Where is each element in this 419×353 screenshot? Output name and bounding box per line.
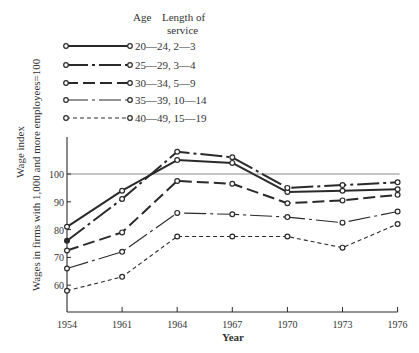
data-point-marker <box>65 238 70 243</box>
data-point-marker <box>340 188 345 193</box>
legend-marker <box>128 63 133 68</box>
data-point-marker <box>175 158 180 163</box>
legend-marker <box>64 116 69 121</box>
x-tick-label: 1964 <box>167 319 187 330</box>
series-40—49 <box>65 222 400 294</box>
legend-label: 20—24, 2—3 <box>135 40 196 52</box>
legend-label: 25—29, 3—4 <box>135 59 196 71</box>
data-point-marker <box>120 188 125 193</box>
x-tick-label: 1967 <box>222 319 242 330</box>
y-tick-label: 90 <box>54 197 64 208</box>
legend-marker <box>128 98 133 103</box>
legend-marker <box>128 116 133 121</box>
data-point-marker <box>340 183 345 188</box>
data-point-marker <box>340 198 345 203</box>
data-point-marker <box>175 211 180 216</box>
legend-label: 30—34, 5—9 <box>135 77 196 89</box>
legend: 20—24, 2—325—29, 3—430—34, 5—935—39, 10—… <box>64 40 207 124</box>
series-lines <box>65 149 400 293</box>
data-point-marker <box>230 234 235 239</box>
legend-header-age: Age <box>133 11 151 23</box>
legend-item: 30—34, 5—9 <box>64 77 196 89</box>
series-20—24 <box>65 158 400 230</box>
legend-header-service: service <box>167 24 198 36</box>
data-point-marker <box>120 197 125 202</box>
axes: 607080901001954196119641967197019731976 <box>49 137 408 330</box>
data-point-marker <box>285 201 290 206</box>
wage-index-line-chart: Age Length of service 20—24, 2—325—29, 3… <box>0 0 419 353</box>
data-point-marker <box>65 266 70 271</box>
data-point-marker <box>230 160 235 165</box>
legend-marker <box>128 44 133 49</box>
data-point-marker <box>395 209 400 214</box>
legend-marker <box>64 44 69 49</box>
x-axis-title: Year <box>222 331 244 343</box>
x-tick-label: 1976 <box>388 319 408 330</box>
series-line <box>67 212 398 269</box>
legend-marker <box>64 81 69 86</box>
data-point-marker <box>395 180 400 185</box>
data-point-marker <box>120 274 125 279</box>
legend-marker <box>128 81 133 86</box>
data-point-marker <box>395 222 400 227</box>
data-point-marker <box>120 249 125 254</box>
data-point-marker <box>175 234 180 239</box>
y-tick-label: 80 <box>54 225 64 236</box>
data-point-marker <box>120 230 125 235</box>
legend-marker <box>64 63 69 68</box>
data-point-marker <box>285 234 290 239</box>
y-tick-label: 60 <box>54 280 64 291</box>
data-point-marker <box>395 187 400 192</box>
legend-marker <box>64 98 69 103</box>
data-point-marker <box>175 149 180 154</box>
data-point-marker <box>65 248 70 253</box>
legend-item: 35—39, 10—14 <box>64 94 207 106</box>
data-point-marker <box>340 220 345 225</box>
legend-label: 35—39, 10—14 <box>135 94 207 106</box>
x-tick-label: 1973 <box>333 319 353 330</box>
legend-label: 40—49, 15—19 <box>135 112 207 124</box>
data-point-marker <box>175 179 180 184</box>
data-point-marker <box>340 245 345 250</box>
data-point-marker <box>230 155 235 160</box>
data-point-marker <box>65 224 70 229</box>
y-axis-subtitle: Wages in firms with 1,000 and more emplo… <box>30 58 42 291</box>
x-tick-label: 1961 <box>112 319 132 330</box>
legend-item: 20—24, 2—3 <box>64 40 196 52</box>
data-point-marker <box>65 288 70 293</box>
legend-item: 40—49, 15—19 <box>64 112 207 124</box>
y-tick-label: 70 <box>54 252 64 263</box>
x-tick-label: 1954 <box>57 319 77 330</box>
legend-item: 25—29, 3—4 <box>64 59 196 71</box>
y-axis-title: Wage index <box>14 126 26 178</box>
data-point-marker <box>230 212 235 217</box>
data-point-marker <box>285 215 290 220</box>
data-point-marker <box>285 186 290 191</box>
series-35—39 <box>65 209 400 271</box>
data-point-marker <box>395 192 400 197</box>
legend-header-length: Length of <box>162 11 205 23</box>
y-tick-label: 100 <box>49 169 64 180</box>
x-tick-label: 1970 <box>277 319 297 330</box>
data-point-marker <box>230 181 235 186</box>
